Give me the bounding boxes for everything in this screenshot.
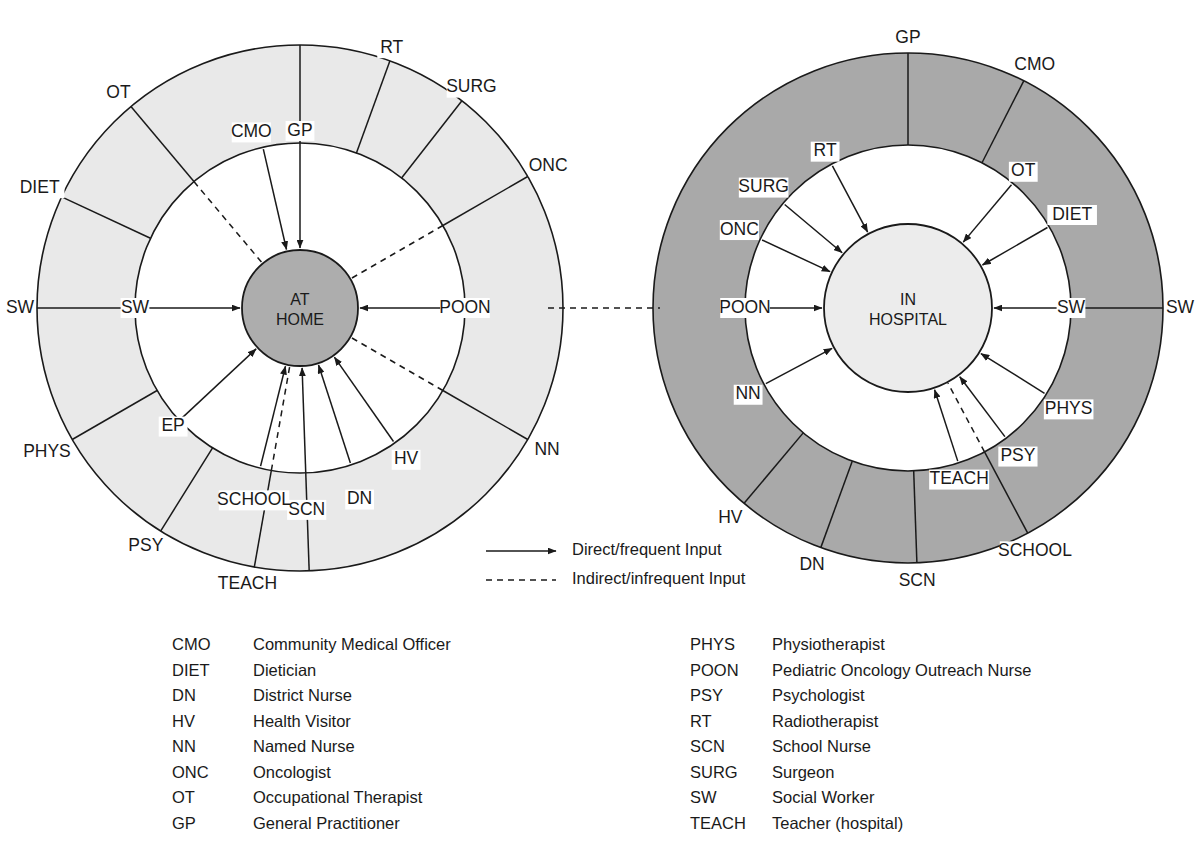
role-label-teach: TEACH	[929, 468, 988, 488]
role-label-gp: GP	[287, 120, 312, 140]
abbreviation-code-sw: SW	[690, 788, 717, 806]
abbreviation-code-diet: DIET	[172, 661, 210, 679]
role-label-poon: POON	[439, 297, 491, 317]
abbreviation-code-phys: PHYS	[690, 635, 735, 653]
diagrams-layer: ATHOMEGPRTSURGONCPOONNNHVDNSCNSCHOOLTEAC…	[6, 27, 1195, 594]
role-label-cmo: CMO	[1014, 54, 1055, 74]
hub-label-line2: HOSPITAL	[869, 311, 947, 328]
abbreviation-code-onc: ONC	[172, 763, 209, 781]
hub-circle-in-hospital	[824, 224, 992, 392]
role-label-onc: ONC	[720, 219, 759, 239]
abbreviation-text-surg: Surgeon	[772, 763, 834, 781]
role-label-ot: OT	[106, 82, 131, 102]
abbreviation-text-phys: Physiotherapist	[772, 635, 885, 653]
role-label-sw: SW	[121, 297, 150, 317]
abbreviation-row: CMOCommunity Medical Officer	[172, 635, 451, 653]
legend-label-solid: Direct/frequent Input	[572, 540, 722, 558]
abbreviation-code-hv: HV	[172, 712, 195, 730]
role-label-phys: PHYS	[1045, 398, 1093, 418]
role-label-cmo: CMO	[231, 121, 272, 141]
abbreviation-code-gp: GP	[172, 814, 196, 832]
role-label-diet: DIET	[20, 177, 60, 197]
abbreviation-row: SURGSurgeon	[690, 763, 834, 781]
abbreviation-key: CMOCommunity Medical OfficerDIETDieticia…	[172, 635, 1032, 832]
abbreviation-row: SCNSchool Nurse	[690, 737, 871, 755]
role-label-sw: SW	[1166, 297, 1195, 317]
abbreviation-code-surg: SURG	[690, 763, 738, 781]
role-label-gp: GP	[895, 27, 920, 47]
role-label-phys: PHYS	[23, 441, 71, 461]
abbreviation-row: DNDistrict Nurse	[172, 686, 352, 704]
role-label-rt: RT	[380, 37, 403, 57]
abbreviation-code-teach: TEACH	[690, 814, 746, 832]
role-label-diet: DIET	[1052, 204, 1092, 224]
hub-circle-at-home	[242, 250, 358, 366]
abbreviation-text-psy: Psychologist	[772, 686, 865, 704]
abbreviation-code-nn: NN	[172, 737, 196, 755]
abbreviation-code-poon: POON	[690, 661, 739, 679]
abbreviation-text-rt: Radiotherapist	[772, 712, 879, 730]
abbreviation-text-sw: Social Worker	[772, 788, 875, 806]
role-label-psy: PSY	[128, 535, 163, 555]
abbreviation-text-scn: School Nurse	[772, 737, 871, 755]
role-label-nn: NN	[735, 383, 760, 403]
role-label-sw: SW	[1057, 297, 1086, 317]
abbreviation-row: ONCOncologist	[172, 763, 331, 781]
abbreviation-row: SWSocial Worker	[690, 788, 875, 806]
role-label-ep: EP	[161, 415, 184, 435]
abbreviation-text-onc: Oncologist	[253, 763, 331, 781]
abbreviation-row: TEACHTeacher (hospital)	[690, 814, 903, 832]
line-style-legend: Direct/frequent InputIndirect/infrequent…	[486, 540, 746, 587]
abbreviation-code-rt: RT	[690, 712, 712, 730]
role-label-psy: PSY	[1000, 445, 1035, 465]
abbreviation-code-scn: SCN	[690, 737, 725, 755]
abbreviation-row: POONPediatric Oncology Outreach Nurse	[690, 661, 1032, 679]
abbreviation-row: PSYPsychologist	[690, 686, 865, 704]
role-label-hv: HV	[718, 507, 743, 527]
role-label-surg: SURG	[738, 176, 789, 196]
abbreviation-text-ot: Occupational Therapist	[253, 788, 423, 806]
role-label-hv: HV	[394, 448, 419, 468]
abbreviation-row: HVHealth Visitor	[172, 712, 351, 730]
abbreviation-code-psy: PSY	[690, 686, 723, 704]
role-label-poon: POON	[719, 297, 771, 317]
hub-label-line1: AT	[290, 291, 309, 308]
hub-label-line2: HOME	[276, 311, 324, 328]
role-label-sw: SW	[6, 297, 35, 317]
diagram-canvas: ATHOMEGPRTSURGONCPOONNNHVDNSCNSCHOOLTEAC…	[0, 0, 1198, 852]
role-label-school: SCHOOL	[217, 489, 291, 509]
abbreviation-text-poon: Pediatric Oncology Outreach Nurse	[772, 661, 1032, 679]
diagram-at-home: ATHOMEGPRTSURGONCPOONNNHVDNSCNSCHOOLTEAC…	[6, 37, 568, 594]
abbreviation-row: NNNamed Nurse	[172, 737, 355, 755]
abbreviation-row: GPGeneral Practitioner	[172, 814, 400, 832]
care-team-figure: ATHOMEGPRTSURGONCPOONNNHVDNSCNSCHOOLTEAC…	[0, 0, 1198, 852]
role-label-onc: ONC	[529, 155, 568, 175]
role-label-rt: RT	[814, 140, 837, 160]
abbreviation-text-hv: Health Visitor	[253, 712, 351, 730]
abbreviation-text-teach: Teacher (hospital)	[772, 814, 903, 832]
role-label-school: SCHOOL	[998, 540, 1072, 560]
role-label-teach: TEACH	[218, 573, 277, 593]
abbreviation-text-diet: Dietician	[253, 661, 316, 679]
diagram-in-hospital: INHOSPITALGPCMOOTDIETSWSWPHYSPSYTEACHSCH…	[653, 27, 1195, 592]
abbreviation-row: OTOccupational Therapist	[172, 788, 423, 806]
abbreviation-row: DIETDietician	[172, 661, 316, 679]
role-label-nn: NN	[534, 439, 559, 459]
abbreviation-row: RTRadiotherapist	[690, 712, 879, 730]
role-label-surg: SURG	[446, 76, 497, 96]
abbreviation-code-dn: DN	[172, 686, 196, 704]
role-label-dn: DN	[347, 488, 372, 508]
role-label-scn: SCN	[899, 570, 936, 590]
role-label-dn: DN	[799, 554, 824, 574]
abbreviation-text-cmo: Community Medical Officer	[253, 635, 451, 653]
role-label-ot: OT	[1011, 160, 1036, 180]
abbreviation-code-cmo: CMO	[172, 635, 211, 653]
role-label-scn: SCN	[288, 499, 325, 519]
legend-label-dashed: Indirect/infrequent Input	[572, 569, 746, 587]
abbreviation-text-nn: Named Nurse	[253, 737, 355, 755]
hub-label-line1: IN	[900, 291, 916, 308]
abbreviation-text-dn: District Nurse	[253, 686, 352, 704]
abbreviation-code-ot: OT	[172, 788, 195, 806]
abbreviation-text-gp: General Practitioner	[253, 814, 400, 832]
abbreviation-row: PHYSPhysiotherapist	[690, 635, 885, 653]
